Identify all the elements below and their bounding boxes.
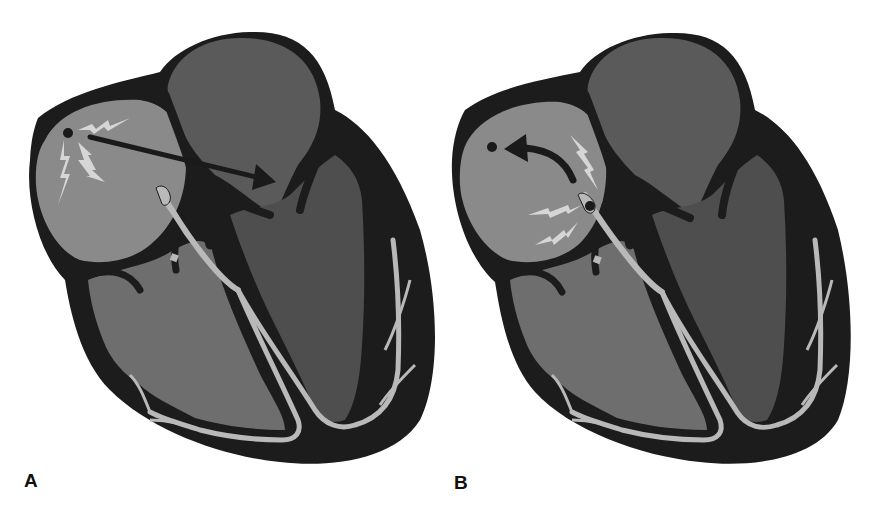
av-junction-dot xyxy=(585,201,595,211)
panel-a: A xyxy=(0,0,440,516)
panel-label-a: A xyxy=(24,470,38,492)
heart-diagram-b xyxy=(440,0,879,516)
panel-b: B xyxy=(440,0,879,516)
sa-node-dot xyxy=(63,128,73,138)
panel-label-b: B xyxy=(454,472,468,494)
heart-diagram-a xyxy=(0,0,440,516)
right-atrium xyxy=(460,102,606,262)
sa-node-dot xyxy=(487,142,497,152)
